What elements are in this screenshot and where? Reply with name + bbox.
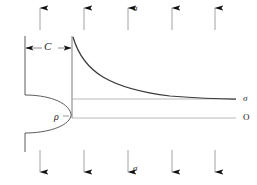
label-applied-stress-bottom: σ bbox=[133, 164, 137, 173]
bottom-load-arrows bbox=[40, 150, 215, 172]
label-applied-stress-top: σ bbox=[133, 4, 137, 13]
stress-distribution-curve bbox=[73, 37, 236, 99]
crack-lower-face bbox=[25, 116, 71, 133]
crack-upper-face bbox=[25, 95, 71, 114]
top-load-arrows bbox=[40, 8, 215, 30]
figure-canvas bbox=[0, 0, 257, 185]
crack-outline bbox=[25, 95, 71, 133]
label-crack-half-length: C bbox=[44, 41, 51, 52]
label-crack-tip-radius: ρ bbox=[54, 112, 59, 122]
label-far-field-stress: σ bbox=[243, 94, 247, 103]
label-axis-origin: O bbox=[243, 113, 250, 122]
fracture-mechanics-figure: σ σ σ O C ρ bbox=[0, 0, 257, 185]
